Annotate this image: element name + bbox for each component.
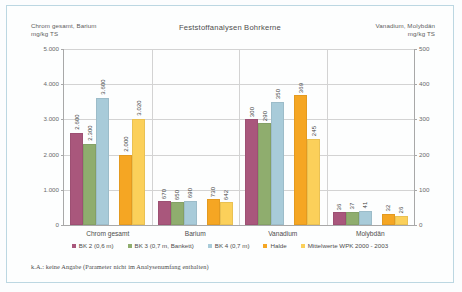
bar-item[interactable]: 730	[207, 49, 220, 225]
legend-item[interactable]: BK 4 (0,7 m)	[208, 242, 250, 249]
bar[interactable]	[220, 202, 233, 225]
bar[interactable]	[158, 201, 171, 225]
bar-group: 670650690730642Barium	[152, 49, 240, 225]
bar-item[interactable]: 2.300	[83, 49, 96, 225]
axis-tick-label: 200	[419, 151, 429, 158]
bar-spacer	[109, 49, 119, 225]
axis-tick-label: 500	[419, 45, 429, 52]
legend-label: BK 4 (0,7 m)	[215, 242, 250, 249]
bar[interactable]	[171, 202, 184, 225]
bar-item[interactable]: 690	[184, 49, 197, 225]
axis-tick-mark	[414, 84, 417, 85]
right-axis-line	[414, 49, 415, 225]
bar-item[interactable]: 32	[382, 49, 395, 225]
legend-item[interactable]: BK 2 (0,6 m)	[72, 242, 114, 249]
axis-tick-mark	[414, 155, 417, 156]
footnote: k.A.: keine Angabe (Parameter nicht im A…	[31, 263, 209, 270]
bar[interactable]	[70, 133, 83, 225]
bar-value-label: 300	[249, 107, 255, 117]
bar-spacer	[284, 49, 294, 225]
bar-spacer	[372, 49, 382, 225]
bar-item[interactable]: 650	[171, 49, 184, 225]
bar[interactable]	[83, 144, 96, 225]
category-label: Molybdän	[327, 230, 415, 237]
bar-item[interactable]: 369	[294, 49, 307, 225]
bar-value-label: 2.300	[87, 125, 93, 141]
category-label: Vanadium	[239, 230, 327, 237]
axis-tick-label: 1.000	[44, 186, 59, 193]
bar[interactable]	[258, 123, 271, 225]
legend-label: BK 3 (0,7 m, Bankett)	[135, 242, 194, 249]
legend-swatch	[208, 244, 212, 248]
bar[interactable]	[271, 102, 284, 225]
bar-item[interactable]: 642	[220, 49, 233, 225]
bar-item[interactable]: 2.600	[70, 49, 83, 225]
category-label: Chrom gesamt	[64, 230, 152, 237]
axis-tick-mark	[414, 190, 417, 191]
axis-tick-label: 3.000	[44, 115, 59, 122]
bar-value-label: 36	[336, 203, 342, 210]
chart-legend: BK 2 (0,6 m)BK 3 (0,7 m, Bankett)BK 4 (0…	[7, 242, 453, 249]
bar-item[interactable]: 350	[271, 49, 284, 225]
bar[interactable]	[382, 214, 395, 225]
bar-value-label: 32	[385, 205, 391, 212]
chart-title: Feststoffanalysen Bohrkerne	[7, 23, 453, 32]
axis-tick-label: 300	[419, 115, 429, 122]
bar-item[interactable]: 36	[333, 49, 346, 225]
legend-label: Halde	[270, 242, 286, 249]
bar[interactable]	[333, 212, 346, 225]
bar[interactable]	[294, 95, 307, 225]
bar-item[interactable]: 300	[245, 49, 258, 225]
legend-label: Mittelwerte WPK 2000 - 2003	[308, 242, 388, 249]
bar-item[interactable]: 245	[307, 49, 320, 225]
axis-tick-mark	[414, 49, 417, 50]
bar-item[interactable]: 26	[395, 49, 408, 225]
legend-label: BK 2 (0,6 m)	[79, 242, 114, 249]
bar-value-label: 26	[398, 207, 404, 214]
legend-swatch	[301, 244, 305, 248]
legend-item[interactable]: Mittelwerte WPK 2000 - 2003	[301, 242, 388, 249]
bar-item[interactable]: 3.600	[96, 49, 109, 225]
legend-swatch	[263, 244, 267, 248]
axis-tick-label: 400	[419, 80, 429, 87]
bar-spacer	[197, 49, 207, 225]
bar[interactable]	[119, 155, 132, 225]
chart-page: Chrom gesamt, Barium mg/kg TS Vanadium, …	[0, 0, 462, 292]
bar[interactable]	[245, 119, 258, 225]
axis-tick-mark	[61, 225, 64, 226]
chart-frame: Chrom gesamt, Barium mg/kg TS Vanadium, …	[6, 5, 454, 283]
bar-value-label: 245	[311, 126, 317, 136]
legend-item[interactable]: BK 3 (0,7 m, Bankett)	[128, 242, 194, 249]
bar-value-label: 642	[223, 190, 229, 200]
bar[interactable]	[184, 201, 197, 225]
axis-tick-label: 5.000	[44, 45, 59, 52]
axis-tick-label: 4.000	[44, 80, 59, 87]
bar-value-label: 369	[298, 83, 304, 93]
bar-value-label: 650	[174, 190, 180, 200]
bottom-axis-line	[63, 225, 415, 226]
bar[interactable]	[207, 199, 220, 225]
bar-item[interactable]: 3.020	[132, 49, 145, 225]
bar-value-label: 730	[210, 187, 216, 197]
bar-item[interactable]: 37	[346, 49, 359, 225]
axis-tick-label: 100	[419, 186, 429, 193]
bar-item[interactable]: 41	[359, 49, 372, 225]
axis-tick-label: 0	[56, 221, 59, 228]
category-label: Barium	[152, 230, 240, 237]
bar[interactable]	[359, 211, 372, 225]
bar[interactable]	[395, 216, 408, 225]
bar-item[interactable]: 2.000	[119, 49, 132, 225]
bar[interactable]	[132, 119, 145, 225]
bar-item[interactable]: 670	[158, 49, 171, 225]
axis-tick-label: 2.000	[44, 151, 59, 158]
bar[interactable]	[96, 98, 109, 225]
bar[interactable]	[346, 212, 359, 225]
bar-group: 300290350369245Vanadium	[239, 49, 327, 225]
bar-value-label: 41	[362, 202, 368, 209]
legend-swatch	[128, 244, 132, 248]
bar-item[interactable]: 290	[258, 49, 271, 225]
bar-value-label: 690	[187, 188, 193, 198]
legend-swatch	[72, 244, 76, 248]
bar[interactable]	[307, 139, 320, 225]
legend-item[interactable]: Halde	[263, 242, 286, 249]
